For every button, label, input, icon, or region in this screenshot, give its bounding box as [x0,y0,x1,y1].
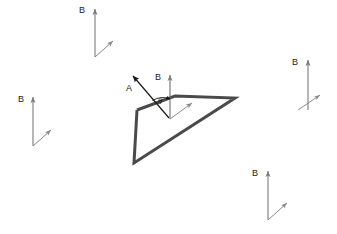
physics-diagram-svg: B B B B B [0,0,337,234]
normal-vector-a: A [126,76,169,118]
field-vector-label: B [18,94,24,104]
field-vector-right: B [292,57,320,110]
field-vector-diagonal-icon [170,103,192,119]
diagram-canvas: B B B B B [0,0,337,234]
field-vector-diagonal-icon [268,203,287,220]
field-vector-label: B [292,57,298,67]
field-vector-label: B [252,168,258,178]
field-vector-label: B [79,5,85,15]
field-vector-diagonal-icon [95,41,113,57]
field-vector-top-left: B [79,5,113,57]
field-vector-bottom-right: B [252,168,287,220]
field-vector-diagonal-icon [33,130,51,146]
field-vector-diagonal-icon [298,95,320,110]
field-vector-left: B [18,94,51,146]
normal-vector-label: A [126,83,132,93]
field-vector-label: B [155,72,161,82]
angle-theta-label: θ [158,97,162,106]
planar-surface [134,96,235,163]
